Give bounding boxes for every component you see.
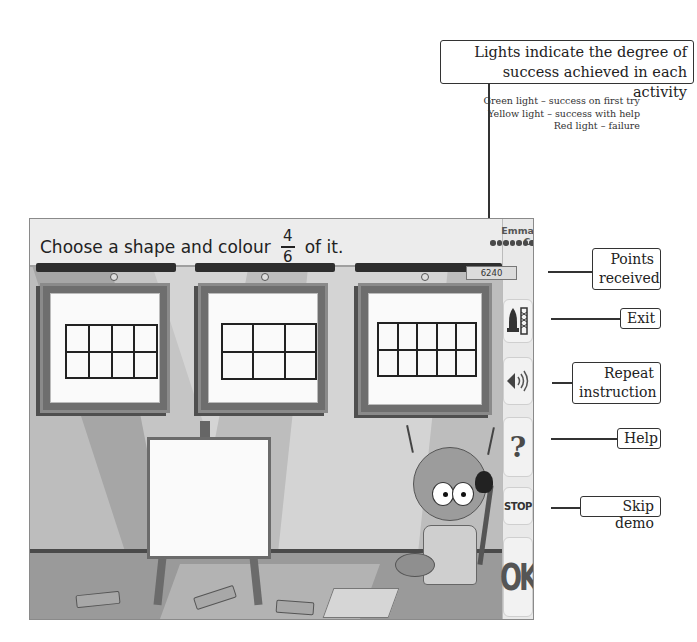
- repeat-connector: [552, 382, 572, 384]
- success-light: [497, 240, 503, 246]
- grid-cell[interactable]: [456, 323, 476, 350]
- alien-smock: [423, 525, 477, 585]
- shape-grid-4x2[interactable]: [65, 324, 158, 379]
- points-callout: Points received: [592, 248, 661, 290]
- lights-legend: Green light – success on first try Yello…: [483, 95, 640, 133]
- instruction-after: of it.: [305, 237, 344, 257]
- instruction-before: Choose a shape and colour: [40, 237, 271, 257]
- grid-cell[interactable]: [417, 350, 437, 377]
- grid-cell[interactable]: [456, 350, 476, 377]
- grid-cell[interactable]: [134, 325, 157, 352]
- shape-frame-2[interactable]: [198, 283, 328, 413]
- alien-eye-left: [432, 482, 454, 506]
- speaker-icon: [505, 369, 531, 393]
- points-connector: [548, 271, 592, 273]
- instruction-banner: Choose a shape and colour 4 6 of it.: [30, 219, 502, 267]
- grid-cell[interactable]: [89, 325, 112, 352]
- fraction-numerator: 4: [283, 229, 293, 244]
- repeat-instruction-button[interactable]: [503, 357, 533, 405]
- grid-cell[interactable]: [285, 324, 316, 352]
- success-light: [516, 240, 522, 246]
- help-button[interactable]: ?: [503, 417, 533, 477]
- alien-eye-right: [452, 482, 474, 506]
- grid-cell[interactable]: [66, 325, 89, 352]
- antenna-left: [406, 425, 413, 453]
- exit-button[interactable]: [503, 299, 533, 343]
- grid-cell[interactable]: [112, 325, 135, 352]
- repeat-callout-line1: Repeat: [579, 364, 654, 383]
- hanging-rail-1: [36, 263, 176, 272]
- grid-cell[interactable]: [378, 323, 398, 350]
- success-light: [510, 240, 516, 246]
- skip-demo-callout: Skip demo: [580, 496, 661, 517]
- paint-brush-tip: [475, 471, 493, 493]
- grid-cell[interactable]: [253, 324, 284, 352]
- grid-cell[interactable]: [66, 352, 89, 379]
- grid-cell[interactable]: [398, 350, 418, 377]
- ok-label: OK: [500, 556, 534, 598]
- paint-tube-3: [276, 600, 315, 616]
- instruction-text: Choose a shape and colour 4 6 of it.: [40, 229, 343, 265]
- rocket-icon: [507, 306, 529, 336]
- lights-callout: Lights indicate the degree of success ac…: [440, 40, 694, 84]
- alien-painter-character: [395, 425, 505, 615]
- grid-cell[interactable]: [112, 352, 135, 379]
- shape-frame-3[interactable]: [358, 283, 492, 415]
- hook-2: [261, 273, 269, 281]
- success-light: [529, 240, 534, 246]
- score-display: 6240: [466, 266, 517, 280]
- grid-cell[interactable]: [222, 352, 253, 380]
- help-callout: Help: [617, 428, 661, 449]
- points-callout-line2: received: [599, 269, 654, 288]
- success-light: [523, 240, 529, 246]
- exit-callout: Exit: [620, 308, 661, 329]
- skip-demo-connector: [551, 507, 580, 509]
- lights-callout-line1: Lights indicate the degree of: [447, 42, 687, 62]
- grid-cell[interactable]: [89, 352, 112, 379]
- points-callout-line1: Points: [599, 250, 654, 269]
- grid-cell[interactable]: [253, 352, 284, 380]
- grid-cell[interactable]: [134, 352, 157, 379]
- success-light: [503, 240, 509, 246]
- ok-button[interactable]: OK: [503, 537, 533, 617]
- help-connector: [551, 438, 617, 440]
- grid-cell[interactable]: [417, 323, 437, 350]
- floor-board: [323, 588, 400, 618]
- grid-cell[interactable]: [378, 350, 398, 377]
- shape-grid-5x2[interactable]: [377, 322, 477, 377]
- shape-frame-1[interactable]: [40, 283, 170, 413]
- fraction: 4 6: [281, 229, 295, 265]
- antenna-right: [487, 427, 494, 455]
- grid-cell[interactable]: [437, 323, 457, 350]
- shape-grid-3x2[interactable]: [221, 323, 317, 380]
- game-window: Choose a shape and colour 4 6 of it.: [29, 218, 534, 620]
- stop-skip-demo-button[interactable]: STOP: [503, 487, 533, 525]
- question-mark-icon: ?: [510, 431, 526, 464]
- legend-yellow: Yellow light – success with help: [483, 108, 640, 121]
- repeat-callout-line2: instruction: [579, 383, 654, 402]
- legend-green: Green light – success on first try: [483, 95, 640, 108]
- grid-cell[interactable]: [437, 350, 457, 377]
- easel-canvas: [147, 437, 271, 559]
- grid-cell[interactable]: [398, 323, 418, 350]
- grid-cell[interactable]: [222, 324, 253, 352]
- success-lights: [490, 240, 534, 246]
- hook-3: [421, 273, 429, 281]
- grid-cell[interactable]: [285, 352, 316, 380]
- paint-palette: [395, 553, 435, 577]
- repeat-callout: Repeat instruction: [572, 362, 661, 404]
- hanging-rail-2: [195, 263, 335, 272]
- success-light: [490, 240, 496, 246]
- legend-red: Red light – failure: [483, 120, 640, 133]
- hook-1: [110, 273, 118, 281]
- stop-label: STOP: [504, 501, 532, 512]
- exit-connector: [551, 318, 620, 320]
